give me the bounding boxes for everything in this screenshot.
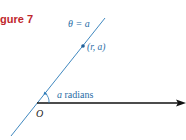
point-marker [81,44,85,48]
origin-label: O [36,108,43,119]
angle-arrow-icon [44,92,48,95]
angle-unit: radians [62,89,93,100]
theta-line [11,18,105,136]
polar-line-diagram: θ = a (r, a) a radians O [0,0,186,140]
angle-label: a radians [57,89,93,100]
line-equation-label: θ = a [68,18,90,29]
point-label: (r, a) [87,42,105,53]
